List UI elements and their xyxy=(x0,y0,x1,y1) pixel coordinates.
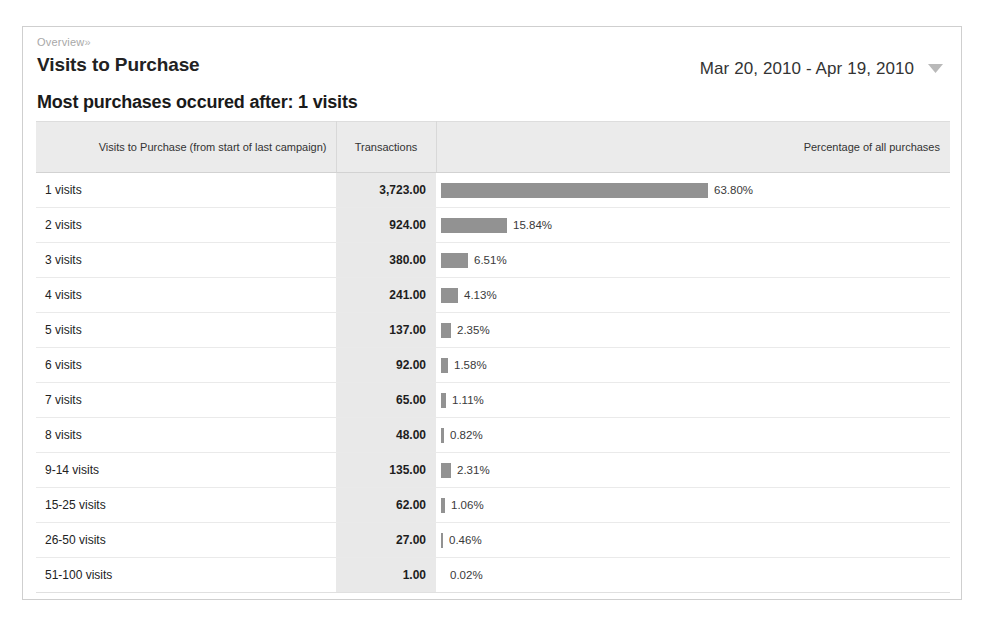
cell-dimension: 26-50 visits xyxy=(36,523,336,558)
cell-transactions: 48.00 xyxy=(336,418,436,453)
percentage-label: 2.35% xyxy=(457,324,490,336)
cell-percentage: 0.82% xyxy=(436,418,950,453)
cell-percentage: 2.31% xyxy=(436,453,950,488)
percentage-bar xyxy=(441,218,507,233)
report-panel: Overview» Visits to Purchase Mar 20, 201… xyxy=(22,26,962,600)
breadcrumb-overview-link[interactable]: Overview xyxy=(37,36,84,48)
cell-percentage: 1.58% xyxy=(436,348,950,383)
percentage-bar xyxy=(441,533,443,548)
cell-transactions: 3,723.00 xyxy=(336,173,436,208)
cell-dimension: 1 visits xyxy=(36,173,336,208)
table-row[interactable]: 4 visits241.004.13% xyxy=(36,278,950,313)
cell-dimension: 2 visits xyxy=(36,208,336,243)
percentage-bar-wrap: 4.13% xyxy=(441,278,950,312)
table-row[interactable]: 51-100 visits1.000.02% xyxy=(36,558,950,593)
cell-transactions: 137.00 xyxy=(336,313,436,348)
cell-dimension: 9-14 visits xyxy=(36,453,336,488)
cell-percentage: 0.02% xyxy=(436,558,950,593)
table-row[interactable]: 1 visits3,723.0063.80% xyxy=(36,173,950,208)
date-range-selector[interactable]: Mar 20, 2010 - Apr 19, 2010 xyxy=(700,59,943,80)
cell-dimension: 15-25 visits xyxy=(36,488,336,523)
cell-transactions: 92.00 xyxy=(336,348,436,383)
percentage-label: 0.46% xyxy=(449,534,482,546)
table-body: 1 visits3,723.0063.80%2 visits924.0015.8… xyxy=(36,173,950,593)
table-header-row: Visits to Purchase (from start of last c… xyxy=(36,122,950,173)
visits-to-purchase-table: Visits to Purchase (from start of last c… xyxy=(36,121,950,593)
column-header-percentage[interactable]: Percentage of all purchases xyxy=(436,122,950,173)
table-row[interactable]: 26-50 visits27.000.46% xyxy=(36,523,950,558)
table-row[interactable]: 3 visits380.006.51% xyxy=(36,243,950,278)
percentage-bar-wrap: 1.06% xyxy=(441,488,950,522)
percentage-bar xyxy=(441,253,468,268)
cell-percentage: 0.46% xyxy=(436,523,950,558)
cell-percentage: 15.84% xyxy=(436,208,950,243)
table-row[interactable]: 8 visits48.000.82% xyxy=(36,418,950,453)
percentage-bar xyxy=(441,358,448,373)
percentage-label: 1.06% xyxy=(451,499,484,511)
percentage-bar-wrap: 63.80% xyxy=(441,173,950,207)
table-row[interactable]: 9-14 visits135.002.31% xyxy=(36,453,950,488)
percentage-bar-wrap: 2.35% xyxy=(441,313,950,347)
percentage-bar xyxy=(441,463,451,478)
cell-transactions: 27.00 xyxy=(336,523,436,558)
percentage-label: 1.58% xyxy=(454,359,487,371)
percentage-label: 15.84% xyxy=(513,219,552,231)
table-row[interactable]: 7 visits65.001.11% xyxy=(36,383,950,418)
cell-percentage: 4.13% xyxy=(436,278,950,313)
table-row[interactable]: 6 visits92.001.58% xyxy=(36,348,950,383)
cell-percentage: 63.80% xyxy=(436,173,950,208)
percentage-bar-wrap: 6.51% xyxy=(441,243,950,277)
percentage-label: 4.13% xyxy=(464,289,497,301)
cell-transactions: 241.00 xyxy=(336,278,436,313)
percentage-bar xyxy=(441,183,708,198)
percentage-bar xyxy=(441,288,458,303)
cell-dimension: 3 visits xyxy=(36,243,336,278)
date-range-label: Mar 20, 2010 - Apr 19, 2010 xyxy=(700,59,914,78)
cell-percentage: 1.06% xyxy=(436,488,950,523)
percentage-bar-wrap: 1.58% xyxy=(441,348,950,382)
cell-transactions: 62.00 xyxy=(336,488,436,523)
percentage-bar-wrap: 2.31% xyxy=(441,453,950,487)
cell-percentage: 2.35% xyxy=(436,313,950,348)
title-row: Visits to Purchase Mar 20, 2010 - Apr 19… xyxy=(35,51,947,85)
cell-percentage: 6.51% xyxy=(436,243,950,278)
cell-transactions: 924.00 xyxy=(336,208,436,243)
headline-summary: Most purchases occured after: 1 visits xyxy=(37,91,947,113)
cell-percentage: 1.11% xyxy=(436,383,950,418)
cell-transactions: 1.00 xyxy=(336,558,436,593)
cell-dimension: 5 visits xyxy=(36,313,336,348)
percentage-bar xyxy=(441,428,444,443)
percentage-label: 63.80% xyxy=(714,184,753,196)
column-header-transactions[interactable]: Transactions xyxy=(336,122,436,173)
percentage-bar-wrap: 15.84% xyxy=(441,208,950,242)
percentage-label: 0.82% xyxy=(450,429,483,441)
percentage-bar xyxy=(441,393,446,408)
cell-dimension: 7 visits xyxy=(36,383,336,418)
breadcrumb-chevron-icon: » xyxy=(84,36,90,48)
table-row[interactable]: 15-25 visits62.001.06% xyxy=(36,488,950,523)
percentage-bar-wrap: 1.11% xyxy=(441,383,950,417)
percentage-label: 1.11% xyxy=(452,394,484,406)
cell-transactions: 380.00 xyxy=(336,243,436,278)
cell-transactions: 135.00 xyxy=(336,453,436,488)
percentage-bar-wrap: 0.02% xyxy=(441,558,950,592)
percentage-bar-wrap: 0.46% xyxy=(441,523,950,557)
cell-dimension: 51-100 visits xyxy=(36,558,336,593)
percentage-bar xyxy=(441,323,451,338)
cell-dimension: 6 visits xyxy=(36,348,336,383)
cell-transactions: 65.00 xyxy=(336,383,436,418)
table-row[interactable]: 5 visits137.002.35% xyxy=(36,313,950,348)
cell-dimension: 8 visits xyxy=(36,418,336,453)
percentage-bar xyxy=(441,498,445,513)
percentage-label: 6.51% xyxy=(474,254,507,266)
breadcrumb[interactable]: Overview» xyxy=(37,35,947,49)
table-row[interactable]: 2 visits924.0015.84% xyxy=(36,208,950,243)
percentage-bar-wrap: 0.82% xyxy=(441,418,950,452)
percentage-label: 2.31% xyxy=(457,464,490,476)
chevron-down-icon[interactable] xyxy=(928,58,943,78)
table-header: Visits to Purchase (from start of last c… xyxy=(36,122,950,173)
cell-dimension: 4 visits xyxy=(36,278,336,313)
percentage-label: 0.02% xyxy=(450,569,483,581)
column-header-dimension[interactable]: Visits to Purchase (from start of last c… xyxy=(36,122,336,173)
